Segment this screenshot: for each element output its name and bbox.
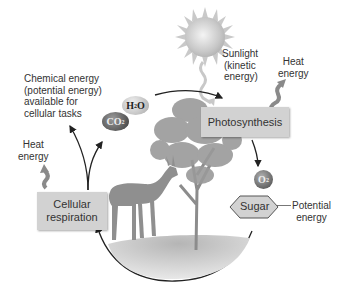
sunlight-label-line2: (kinetic [222, 60, 258, 72]
potential-energy-line2: energy [292, 212, 331, 224]
chemical-energy-line4: cellular tasks [24, 108, 102, 120]
ground [108, 235, 250, 279]
deer-icon [109, 155, 178, 240]
chemical-energy-label: Chemical energy (potential energy) avail… [24, 73, 102, 119]
heat-left-line2: energy [18, 151, 49, 163]
cycle-arc-top [155, 91, 222, 98]
oxygen-molecule: O2 [254, 170, 273, 189]
co2-sub: 2 [122, 119, 125, 125]
respiration-up-arrow-right [88, 142, 102, 190]
cellular-respiration-box: Cellular respiration [37, 192, 107, 230]
heat-energy-right-label: Heat energy [278, 56, 309, 79]
water-molecule: H2O [122, 96, 149, 115]
water-h: H [126, 100, 134, 111]
heat-label-line2: energy [278, 68, 309, 80]
respiration-label-line2: respiration [46, 211, 97, 224]
potential-energy-connector [277, 205, 291, 206]
photosynthesis-label: Photosynthesis [208, 116, 283, 129]
chemical-energy-line2: (potential energy) [24, 85, 102, 97]
cycle-arc-right [252, 140, 258, 166]
o2-base: O [258, 174, 266, 185]
sunlight-label: Sunlight (kinetic energy) [222, 48, 258, 83]
heat-energy-left-label: Heat energy [18, 139, 49, 162]
potential-energy-label: Potential energy [292, 200, 331, 223]
sunlight-label-line1: Sunlight [222, 48, 258, 60]
chemical-energy-line1: Chemical energy [24, 73, 102, 85]
sugar-label: Sugar [240, 200, 268, 212]
sunlight-label-line3: energy) [222, 71, 258, 83]
diagram-graphics [0, 0, 348, 291]
carbon-dioxide-molecule: CO2 [102, 112, 129, 131]
sunlight-arrow [201, 62, 212, 103]
photosynthesis-box: Photosynthesis [201, 107, 289, 137]
chemical-energy-line3: available for [24, 96, 102, 108]
respiration-label-line1: Cellular [53, 198, 90, 211]
o2-sub: 2 [266, 177, 269, 183]
heat-arrow-left [44, 171, 48, 188]
respiration-up-arrow-left [70, 126, 88, 190]
water-o: O [137, 100, 145, 111]
co2-base: CO [107, 116, 122, 127]
heat-label-line1: Heat [278, 56, 309, 68]
potential-energy-line1: Potential [292, 200, 331, 212]
heat-left-line1: Heat [18, 139, 49, 151]
